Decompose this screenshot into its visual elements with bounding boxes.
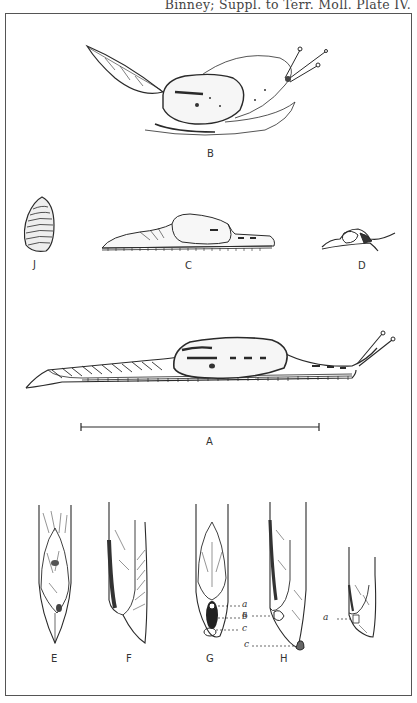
figure-g-label: G <box>206 653 214 664</box>
figure-h: a c H <box>250 500 310 655</box>
figure-j-label: J <box>33 259 36 270</box>
figure-c: C <box>100 210 280 255</box>
scale-bar <box>80 422 320 432</box>
figure-b-drawing <box>85 40 355 135</box>
figure-j: J <box>20 195 60 255</box>
figure-e: E <box>35 503 75 648</box>
figure-i-drawing <box>335 545 380 645</box>
figure-b-label: B <box>207 148 214 159</box>
figure-i-callout-a: a <box>323 612 328 622</box>
figure-f: F <box>105 500 150 650</box>
figure-j-drawing <box>20 195 60 255</box>
figure-c-label: C <box>185 260 192 271</box>
figure-a: A <box>22 328 397 398</box>
figure-g-callout-a: a <box>242 599 247 609</box>
figure-i: a <box>335 545 380 645</box>
figure-h-callout-a: a <box>242 609 247 619</box>
figure-h-label: H <box>280 653 288 664</box>
figure-g-callout-c: c <box>242 623 247 633</box>
plate-citation: Binney; Suppl. to Terr. Moll. Plate IV. <box>165 0 411 12</box>
figure-h-callout-c: c <box>244 639 249 649</box>
figure-a-drawing <box>22 328 397 398</box>
figure-c-drawing <box>100 210 280 255</box>
figure-e-label: E <box>51 653 57 664</box>
figure-e-drawing <box>35 503 75 648</box>
figure-b: B <box>85 40 355 135</box>
figure-d-label: D <box>358 260 366 271</box>
figure-h-drawing <box>250 500 310 655</box>
figure-f-drawing <box>105 500 150 650</box>
figure-d-drawing <box>320 225 400 255</box>
figure-a-label: A <box>206 436 213 447</box>
figure-d: D <box>320 225 400 255</box>
figure-f-label: F <box>126 653 132 664</box>
